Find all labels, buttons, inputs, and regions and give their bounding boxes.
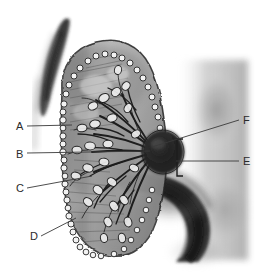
label-f: F: [243, 114, 250, 126]
label-d: D: [30, 230, 38, 242]
label-c: C: [16, 182, 24, 194]
label-b: B: [16, 148, 24, 160]
paper-grain-overlay: [0, 0, 264, 276]
figure-container: A B C D E F: [0, 0, 264, 276]
label-e: E: [243, 155, 251, 167]
anatomical-illustration: A B C D E F: [0, 0, 264, 276]
label-a: A: [16, 120, 24, 132]
